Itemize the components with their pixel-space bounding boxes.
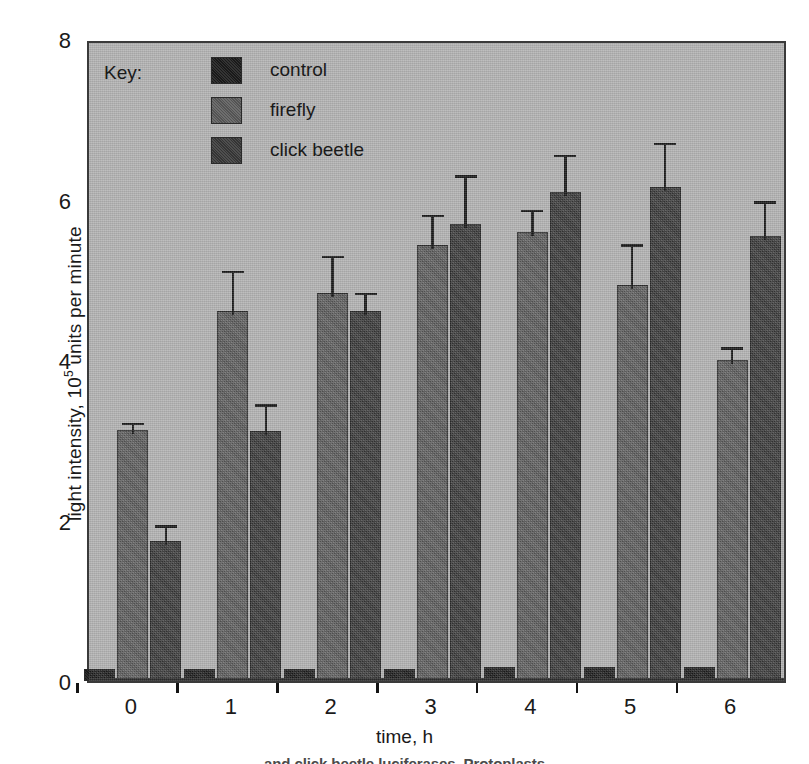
bar-click-beetle-t0 [150, 541, 181, 681]
legend-label: control [270, 59, 327, 81]
legend-swatch-control [211, 57, 242, 84]
x-tick-mark [76, 683, 79, 693]
error-bar-firefly-t5 [617, 244, 648, 289]
x-tick-label: 6 [710, 694, 750, 720]
bar-firefly-t0 [117, 430, 148, 681]
error-bar-firefly-t2 [317, 256, 348, 298]
x-tick-mark [176, 683, 179, 693]
error-bar-stem [431, 215, 434, 250]
error-bar-cap [322, 256, 344, 259]
error-bar-stem [232, 271, 235, 315]
y-tick-label: 4 [37, 351, 71, 373]
y-axis-title-prefix: light intensity, 10 [64, 377, 85, 521]
error-bar-stem [631, 244, 634, 289]
error-bar-firefly-t4 [517, 210, 548, 236]
error-bar-cap [521, 210, 543, 213]
bar-firefly-t5 [617, 285, 648, 681]
error-bar-click-beetle-t1 [250, 404, 281, 435]
error-bar-cap [255, 404, 277, 407]
error-bar-cap [422, 215, 444, 218]
error-bar-cap [754, 201, 776, 204]
error-bar-firefly-t1 [217, 271, 248, 315]
error-bar-cap [554, 155, 576, 158]
error-bar-cap [721, 347, 743, 350]
bar-firefly-t6 [717, 360, 748, 681]
error-bar-click-beetle-t4 [550, 155, 581, 197]
x-tick-label: 5 [610, 694, 650, 720]
bar-click-beetle-t5 [650, 187, 681, 681]
error-bar-stem [265, 404, 268, 435]
error-bar-cap [155, 525, 177, 528]
x-tick-mark [476, 683, 479, 693]
legend-swatch-firefly [211, 97, 242, 124]
error-bar-cap [355, 293, 377, 296]
error-bar-click-beetle-t6 [750, 201, 781, 240]
legend-label: firefly [270, 99, 315, 121]
legend-label: click beetle [270, 139, 364, 161]
legend-swatch-clickbeetle [211, 137, 242, 164]
x-tick-mark [576, 683, 579, 693]
plot-area: Key: controlfireflyclick beetle [87, 41, 786, 683]
error-bar-stem [664, 143, 667, 191]
error-bar-cap [621, 244, 643, 247]
x-tick-label: 0 [111, 694, 151, 720]
error-bar-firefly-t3 [417, 215, 448, 250]
error-bar-cap [455, 175, 477, 178]
x-tick-label: 1 [211, 694, 251, 720]
bar-firefly-t3 [417, 245, 448, 681]
error-bar-stem [364, 293, 367, 315]
bar-firefly-t4 [517, 232, 548, 681]
error-bar-stem [531, 210, 534, 236]
bar-click-beetle-t4 [550, 192, 581, 681]
x-axis-title: time, h [0, 726, 809, 748]
x-tick-mark [276, 683, 279, 693]
figure-caption: and click beetle luciferases. Protoplast… [0, 755, 809, 764]
error-bar-cap [122, 423, 144, 426]
bar-chart-figure: light intensity, 105 units per minute 02… [0, 0, 809, 764]
error-bar-click-beetle-t2 [350, 293, 381, 315]
x-tick-mark [676, 683, 679, 693]
y-tick-label: 8 [37, 30, 71, 52]
error-bar-stem [731, 347, 734, 364]
error-bar-cap [222, 271, 244, 274]
x-tick-label: 4 [510, 694, 550, 720]
bar-click-beetle-t3 [450, 224, 481, 681]
bar-firefly-t1 [217, 311, 248, 681]
bar-click-beetle-t2 [350, 311, 381, 681]
x-tick-label: 3 [411, 694, 451, 720]
error-bar-cap [654, 143, 676, 146]
y-tick-label: 2 [37, 512, 71, 534]
bar-click-beetle-t1 [250, 431, 281, 681]
y-tick-label: 0 [37, 672, 71, 694]
legend: Key: controlfireflyclick beetle [104, 51, 211, 171]
error-bar-stem [764, 201, 767, 240]
error-bar-firefly-t6 [717, 347, 748, 364]
error-bar-stem [331, 256, 334, 298]
bar-firefly-t2 [317, 293, 348, 681]
x-tick-label: 2 [311, 694, 351, 720]
error-bar-click-beetle-t3 [450, 175, 481, 227]
legend-title: Key: [104, 62, 142, 84]
x-tick-mark [376, 683, 379, 693]
error-bar-click-beetle-t0 [150, 525, 181, 545]
x-axis-baseline [89, 678, 784, 681]
bar-click-beetle-t6 [750, 236, 781, 681]
error-bar-stem [564, 155, 567, 197]
error-bar-firefly-t0 [117, 423, 148, 434]
error-bar-stem [165, 525, 168, 545]
error-bar-click-beetle-t5 [650, 143, 681, 191]
error-bar-stem [464, 175, 467, 227]
y-tick-label: 6 [37, 191, 71, 213]
